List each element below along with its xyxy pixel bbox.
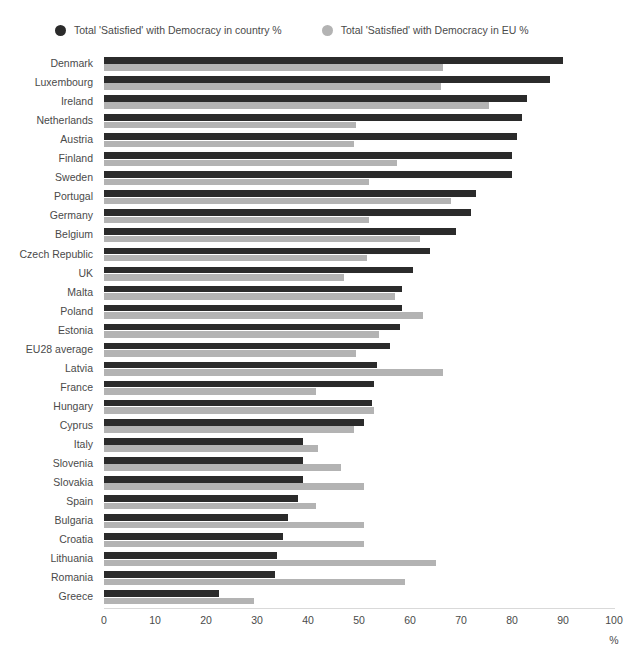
bar-eu[interactable] (104, 369, 443, 376)
bar-eu[interactable] (104, 217, 369, 224)
bar-country[interactable] (104, 76, 550, 83)
category-label: Latvia (0, 361, 93, 375)
category-label: Slovenia (0, 456, 93, 470)
x-axis-tick-label: 30 (251, 614, 263, 626)
category-label: Romania (0, 570, 93, 584)
x-axis-tick-label: 40 (302, 614, 314, 626)
bar-row: Austria (0, 132, 637, 152)
category-label: Estonia (0, 323, 93, 337)
bar-eu[interactable] (104, 464, 341, 471)
bar-row: Hungary (0, 399, 637, 419)
bar-eu[interactable] (104, 522, 364, 529)
bar-eu[interactable] (104, 179, 369, 186)
bar-row: Netherlands (0, 113, 637, 133)
bar-eu[interactable] (104, 198, 451, 205)
bar-row: Italy (0, 437, 637, 457)
x-axis-tick-label: 60 (404, 614, 416, 626)
category-label: Denmark (0, 56, 93, 70)
category-label: Finland (0, 151, 93, 165)
bar-row: France (0, 380, 637, 400)
chart-legend: Total 'Satisfied' with Democracy in coun… (0, 18, 637, 42)
bar-country[interactable] (104, 362, 377, 369)
category-label: Portugal (0, 189, 93, 203)
category-label: Austria (0, 132, 93, 146)
legend-entry[interactable]: Total 'Satisfied' with Democracy in EU % (322, 25, 529, 36)
bar-country[interactable] (104, 400, 372, 407)
bar-eu[interactable] (104, 236, 420, 243)
bar-row: Ireland (0, 94, 637, 114)
bar-eu[interactable] (104, 293, 395, 300)
bar-country[interactable] (104, 267, 413, 274)
bar-row: Portugal (0, 189, 637, 209)
bar-country[interactable] (104, 324, 400, 331)
bar-country[interactable] (104, 95, 527, 102)
bar-country[interactable] (104, 248, 430, 255)
legend-label: Total 'Satisfied' with Democracy in coun… (74, 25, 282, 36)
bar-eu[interactable] (104, 407, 374, 414)
bar-country[interactable] (104, 114, 522, 121)
bar-row: EU28 average (0, 342, 637, 362)
bar-country[interactable] (104, 381, 374, 388)
x-axis-tick-label: 90 (557, 614, 569, 626)
bar-row: UK (0, 266, 637, 286)
bar-row: Lithuania (0, 551, 637, 571)
bar-country[interactable] (104, 438, 303, 445)
bar-row: Bulgaria (0, 513, 637, 533)
bar-eu[interactable] (104, 350, 356, 357)
bar-country[interactable] (104, 476, 303, 483)
bar-eu[interactable] (104, 102, 489, 109)
bar-country[interactable] (104, 209, 471, 216)
bar-country[interactable] (104, 514, 288, 521)
plot-area: DenmarkLuxembourgIrelandNetherlandsAustr… (0, 56, 637, 608)
bar-eu[interactable] (104, 560, 436, 567)
bar-country[interactable] (104, 305, 402, 312)
bar-eu[interactable] (104, 274, 344, 281)
bar-eu[interactable] (104, 598, 254, 605)
bar-row: Germany (0, 208, 637, 228)
bar-row: Spain (0, 494, 637, 514)
bar-country[interactable] (104, 590, 219, 597)
bar-country[interactable] (104, 495, 298, 502)
bar-country[interactable] (104, 171, 512, 178)
bar-country[interactable] (104, 133, 517, 140)
bar-eu[interactable] (104, 255, 367, 262)
bar-eu[interactable] (104, 141, 354, 148)
bar-country[interactable] (104, 57, 563, 64)
bar-country[interactable] (104, 571, 275, 578)
bar-eu[interactable] (104, 312, 423, 319)
bar-row: Sweden (0, 170, 637, 190)
bar-eu[interactable] (104, 160, 397, 167)
legend-entry[interactable]: Total 'Satisfied' with Democracy in coun… (55, 25, 282, 36)
bar-eu[interactable] (104, 83, 441, 90)
category-label: Ireland (0, 94, 93, 108)
bar-eu[interactable] (104, 541, 364, 548)
bar-country[interactable] (104, 152, 512, 159)
bar-eu[interactable] (104, 483, 364, 490)
x-axis-line (104, 608, 615, 609)
bar-country[interactable] (104, 533, 283, 540)
bar-eu[interactable] (104, 445, 318, 452)
x-axis-tick-label: 50 (353, 614, 365, 626)
bar-row: Belgium (0, 227, 637, 247)
bar-eu[interactable] (104, 64, 443, 71)
bar-eu[interactable] (104, 388, 316, 395)
category-label: Netherlands (0, 113, 93, 127)
legend-dot-dark (55, 25, 66, 36)
bar-country[interactable] (104, 419, 364, 426)
bar-country[interactable] (104, 190, 476, 197)
category-label: EU28 average (0, 342, 93, 356)
bar-eu[interactable] (104, 331, 379, 338)
bar-country[interactable] (104, 343, 390, 350)
bar-country[interactable] (104, 286, 402, 293)
bar-eu[interactable] (104, 426, 354, 433)
bar-row: Greece (0, 589, 637, 609)
bar-eu[interactable] (104, 122, 356, 129)
bar-country[interactable] (104, 552, 277, 559)
bar-country[interactable] (104, 457, 303, 464)
bar-country[interactable] (104, 228, 456, 235)
category-label: Sweden (0, 170, 93, 184)
bar-eu[interactable] (104, 503, 316, 510)
bar-eu[interactable] (104, 579, 405, 586)
bar-row: Luxembourg (0, 75, 637, 95)
legend-label: Total 'Satisfied' with Democracy in EU % (341, 25, 529, 36)
